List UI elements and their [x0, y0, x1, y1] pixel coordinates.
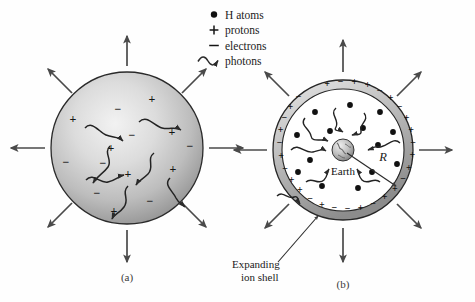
- charge-symbol: −: [147, 194, 154, 208]
- shell-charge-symbol: −: [296, 91, 302, 102]
- h-atom-dot: [327, 128, 333, 134]
- shell-charge-symbol: +: [406, 162, 412, 173]
- shell-charge-symbol: −: [397, 101, 403, 112]
- shell-charge-symbol: +: [351, 76, 357, 87]
- panel-b: + − + + − + − + + − + + − + + − + − − +: [232, 40, 452, 291]
- expansion-arrow: [397, 72, 421, 96]
- shell-charge-symbol: +: [404, 112, 410, 123]
- plus-sign-icon: [210, 26, 219, 35]
- h-atom-dot: [295, 169, 301, 175]
- h-atom-dot: [294, 132, 300, 138]
- shell-charge-symbol: +: [324, 78, 330, 89]
- shell-charge-symbol: +: [278, 124, 284, 135]
- shell-charge-symbol: +: [409, 149, 415, 160]
- panel-b-caption: (b): [337, 278, 350, 291]
- legend-item-protons: protons: [210, 24, 260, 37]
- legend-item-label: H atoms: [225, 9, 264, 21]
- charge-symbol: +: [169, 125, 176, 139]
- shell-charge-symbol: −: [370, 198, 376, 209]
- legend: H atoms protons electrons photons: [198, 9, 267, 68]
- expansion-arrow: [265, 204, 289, 228]
- shell-charge-symbol: −: [307, 193, 313, 204]
- physics-figure: H atoms protons electrons photons: [0, 0, 475, 302]
- filled-circle-icon: [211, 11, 217, 17]
- shell-charge-symbol: +: [382, 191, 388, 202]
- h-atom-dot: [355, 185, 361, 191]
- shell-charge-symbol: −: [400, 173, 406, 184]
- figure-canvas: H atoms protons electrons photons: [0, 0, 475, 302]
- panel-a-caption: (a): [121, 271, 134, 284]
- shell-charge-symbol: +: [365, 79, 371, 90]
- annotation-line-2: ion shell: [241, 271, 279, 283]
- radius-label: R: [378, 150, 387, 164]
- h-atom-dot: [307, 157, 313, 163]
- annotation-leader-line: [278, 216, 318, 262]
- legend-item-photons: photons: [198, 55, 262, 68]
- ionized-sphere: [51, 72, 203, 224]
- expansion-arrow: [397, 204, 421, 228]
- shell-charge-symbol: +: [278, 150, 284, 161]
- h-atom-dot: [319, 183, 325, 189]
- charge-symbol: +: [170, 162, 177, 176]
- charge-symbol: +: [70, 112, 77, 126]
- shell-charge-symbol: −: [377, 85, 383, 96]
- panel-a: + − + − + + − − + + − + − −: [11, 36, 243, 284]
- legend-item-h-atoms: H atoms: [211, 9, 264, 21]
- charge-symbol: −: [94, 186, 101, 200]
- shell-charge-symbol: −: [282, 163, 288, 174]
- h-atom-dot: [394, 161, 400, 167]
- shell-charge-symbol: +: [288, 101, 294, 112]
- legend-item-label: protons: [225, 24, 260, 37]
- h-atom-dot: [390, 129, 396, 135]
- shell-charge-symbol: −: [338, 76, 344, 87]
- legend-item-label: electrons: [225, 40, 267, 52]
- annotation-line-1: Expanding: [232, 258, 280, 270]
- wavy-arrow-icon: [198, 57, 218, 65]
- shell-charge-symbol: −: [332, 202, 338, 213]
- shell-charge-symbol: −: [345, 203, 351, 214]
- shell-charge-symbol: +: [408, 124, 414, 135]
- shell-charge-symbol: −: [281, 112, 287, 123]
- expansion-arrow: [48, 69, 72, 93]
- charge-symbol: +: [125, 167, 132, 181]
- h-atom-dot: [377, 109, 383, 115]
- shell-charge-symbol: +: [388, 92, 394, 103]
- h-atom-dot: [347, 102, 353, 108]
- shell-charge-symbol: +: [297, 184, 303, 195]
- shell-charge-symbol: +: [358, 202, 364, 213]
- shell-charge-symbol: +: [319, 199, 325, 210]
- charge-symbol: −: [187, 139, 194, 153]
- earth-label: Earth: [331, 165, 355, 177]
- charge-symbol: −: [100, 156, 107, 170]
- shell-charge-symbol: +: [289, 174, 295, 185]
- legend-item-label: photons: [225, 55, 262, 68]
- charge-symbol: −: [129, 128, 136, 142]
- legend-item-electrons: electrons: [209, 40, 267, 52]
- charge-symbol: −: [115, 102, 122, 116]
- shell-charge-symbol: −: [277, 137, 283, 148]
- ion-shell-annotation: Expanding ion shell: [232, 216, 318, 283]
- charge-symbol: −: [63, 155, 70, 169]
- expansion-arrow: [48, 203, 72, 227]
- expansion-arrow: [182, 203, 206, 227]
- h-atom-dot: [312, 109, 318, 115]
- shell-charge-symbol: −: [410, 137, 416, 148]
- earth-body: [332, 139, 354, 161]
- charge-symbol: +: [149, 92, 156, 106]
- expansion-arrow: [182, 69, 206, 93]
- expansion-arrow: [265, 72, 289, 96]
